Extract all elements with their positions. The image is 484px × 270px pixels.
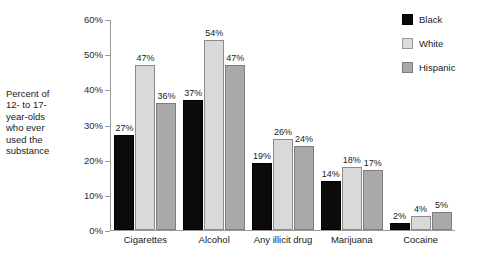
y-axis-tick-label: 0% bbox=[69, 226, 103, 236]
bar-value-label: 47% bbox=[226, 54, 244, 63]
y-axis-tick-mark bbox=[105, 55, 110, 56]
bar-container[interactable]: 17% bbox=[363, 20, 383, 230]
y-axis-tick-mark bbox=[105, 196, 110, 197]
bar[interactable] bbox=[183, 100, 203, 230]
bar-container[interactable]: 54% bbox=[204, 20, 224, 230]
bar[interactable] bbox=[273, 139, 293, 230]
y-axis-tick-label: 50% bbox=[69, 50, 103, 60]
y-axis-tick-mark bbox=[105, 231, 110, 232]
bar-value-label: 47% bbox=[136, 54, 154, 63]
bar-container[interactable]: 24% bbox=[294, 20, 314, 230]
y-axis-tick-label: 20% bbox=[69, 156, 103, 166]
y-axis-tick-mark bbox=[105, 90, 110, 91]
bar-value-label: 24% bbox=[295, 135, 313, 144]
legend-item-white[interactable]: White bbox=[402, 38, 480, 49]
y-axis-tick-mark bbox=[105, 126, 110, 127]
bar-container[interactable]: 47% bbox=[225, 20, 245, 230]
bar-value-label: 18% bbox=[343, 156, 361, 165]
x-axis-category-label: Marijuana bbox=[331, 235, 373, 245]
bar-container[interactable]: 37% bbox=[183, 20, 203, 230]
bar[interactable] bbox=[204, 40, 224, 230]
bar[interactable] bbox=[114, 135, 134, 230]
bar-group: 37%54%47%Alcohol bbox=[180, 20, 249, 230]
bar[interactable] bbox=[252, 163, 272, 230]
legend-swatch-icon bbox=[402, 38, 413, 49]
y-axis-tick-label: 30% bbox=[69, 121, 103, 131]
y-axis-tick-mark bbox=[105, 20, 110, 21]
bar[interactable] bbox=[432, 212, 452, 230]
bar-group: 14%18%17%Marijuana bbox=[317, 20, 386, 230]
x-axis-category-label: Cigarettes bbox=[124, 235, 167, 245]
legend-item-black[interactable]: Black bbox=[402, 14, 480, 25]
bar-chart-figure: Percent of 12- to 17- year-olds who ever… bbox=[0, 0, 484, 270]
bar-value-label: 37% bbox=[184, 89, 202, 98]
bar-value-label: 4% bbox=[414, 205, 427, 214]
bar-container[interactable]: 19% bbox=[252, 20, 272, 230]
bar-value-label: 17% bbox=[364, 159, 382, 168]
bar-value-label: 19% bbox=[253, 152, 271, 161]
legend-item-label: White bbox=[419, 39, 443, 49]
bar-value-label: 5% bbox=[435, 201, 448, 210]
bar-container[interactable]: 27% bbox=[114, 20, 134, 230]
y-axis-tick-label: 10% bbox=[69, 191, 103, 201]
bar[interactable] bbox=[342, 167, 362, 230]
legend-item-hispanic[interactable]: Hispanic bbox=[402, 62, 480, 73]
bar-container[interactable]: 14% bbox=[321, 20, 341, 230]
bar-group: 19%26%24%Any illicit drug bbox=[249, 20, 318, 230]
legend-swatch-icon bbox=[402, 62, 413, 73]
bar-value-label: 54% bbox=[205, 29, 223, 38]
bar[interactable] bbox=[321, 181, 341, 230]
legend-item-label: Hispanic bbox=[419, 63, 455, 73]
bar-value-label: 2% bbox=[393, 212, 406, 221]
bar-group: 27%47%36%Cigarettes bbox=[111, 20, 180, 230]
bar-container[interactable]: 47% bbox=[135, 20, 155, 230]
y-axis-tick-mark bbox=[105, 161, 110, 162]
y-axis-tick-label: 60% bbox=[69, 15, 103, 25]
bar[interactable] bbox=[135, 65, 155, 230]
legend-swatch-icon bbox=[402, 14, 413, 25]
bar[interactable] bbox=[156, 103, 176, 230]
legend-item-label: Black bbox=[419, 15, 442, 25]
y-axis-tick-label: 40% bbox=[69, 86, 103, 96]
x-axis-category-label: Alcohol bbox=[199, 235, 230, 245]
bar[interactable] bbox=[363, 170, 383, 230]
bar-value-label: 27% bbox=[115, 124, 133, 133]
bar-value-label: 14% bbox=[322, 170, 340, 179]
bar-container[interactable]: 18% bbox=[342, 20, 362, 230]
bar-value-label: 36% bbox=[157, 92, 175, 101]
bar[interactable] bbox=[294, 146, 314, 230]
x-axis-category-label: Any illicit drug bbox=[254, 235, 313, 245]
bar-value-label: 26% bbox=[274, 128, 292, 137]
bar[interactable] bbox=[411, 216, 431, 230]
bar[interactable] bbox=[225, 65, 245, 230]
bar[interactable] bbox=[390, 223, 410, 230]
legend: BlackWhiteHispanic bbox=[402, 14, 480, 86]
x-axis-category-label: Cocaine bbox=[403, 235, 438, 245]
x-axis-line bbox=[110, 230, 455, 231]
bar-container[interactable]: 36% bbox=[156, 20, 176, 230]
bar-container[interactable]: 26% bbox=[273, 20, 293, 230]
